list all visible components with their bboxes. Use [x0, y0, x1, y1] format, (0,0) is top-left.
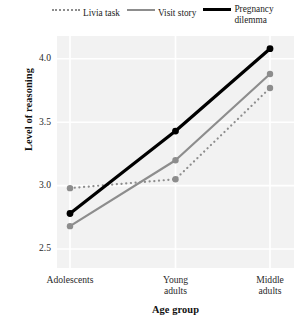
legend-entry-livia-task: Livia task [52, 4, 120, 19]
data-point-marker [67, 223, 73, 229]
legend-line-black-icon [203, 4, 231, 16]
x-tick-label-middle-adults: Middleadults [231, 274, 296, 296]
x-tick-label-young-adults: Youngadults [137, 274, 215, 296]
chart-legend: Livia task Visit story Pregnancy dilemma [52, 4, 296, 34]
data-point-marker [172, 157, 178, 163]
y-tick-label: 4.0 [19, 52, 51, 63]
x-tick-label-adolescents: Adolescents [31, 274, 109, 285]
line-chart-figure: Livia task Visit story Pregnancy dilemma… [0, 0, 296, 326]
plot-area [57, 36, 294, 268]
data-point-marker [267, 85, 273, 91]
legend-label-livia-task: Livia task [83, 4, 120, 19]
legend-line-dotted-icon [52, 4, 80, 16]
legend-line-gray-icon [127, 4, 155, 16]
legend-entry-visit-story: Visit story [127, 4, 196, 19]
legend-label-pregnancy-dilemma: Pregnancy dilemma [234, 4, 286, 25]
y-tick-label: 3.5 [19, 116, 51, 127]
x-axis-title: Age group [57, 304, 294, 315]
data-point-marker [67, 210, 74, 217]
series-line [70, 49, 270, 214]
plot-svg [57, 36, 294, 268]
data-point-marker [67, 185, 73, 191]
series-line [70, 88, 270, 188]
data-point-marker [267, 45, 274, 52]
y-tick-label: 2.5 [19, 242, 51, 253]
data-point-marker [172, 128, 179, 135]
series-line [70, 74, 270, 226]
data-point-marker [267, 71, 273, 77]
data-point-marker [172, 176, 178, 182]
legend-entry-pregnancy-dilemma: Pregnancy dilemma [203, 4, 286, 25]
legend-label-visit-story: Visit story [158, 4, 196, 19]
y-tick-label: 3.0 [19, 179, 51, 190]
